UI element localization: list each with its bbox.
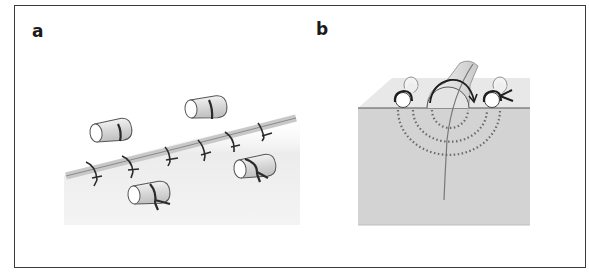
skin-cross-section (358, 108, 530, 225)
bolster-roll (89, 117, 134, 145)
panel-a-illustration (64, 95, 300, 225)
bolster-roll (184, 95, 228, 121)
panel-b-illustration (358, 61, 530, 225)
